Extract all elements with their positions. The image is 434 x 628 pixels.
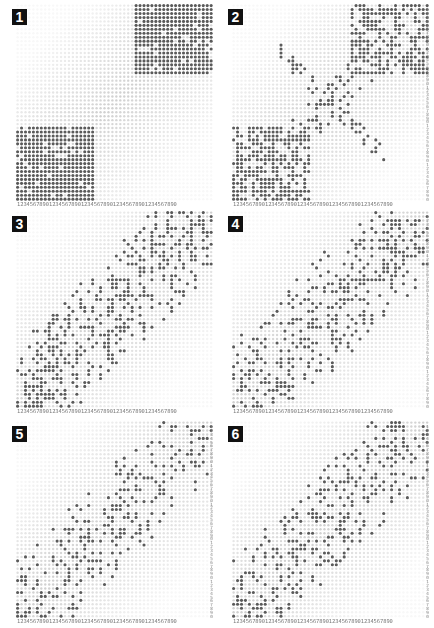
plot-panel-3: 3 12345678901234567890123456789012345678…	[3, 209, 215, 414]
y-axis-ticks: 1234567890123456789012345678901234567890…	[425, 425, 430, 619]
plot-panel-4: 4 12345678901234567890123456789012345678…	[219, 209, 431, 414]
x-axis-ticks: 1234567890123456789012345678901234567890…	[233, 201, 393, 207]
x-axis-ticks: 1234567890123456789012345678901234567890…	[17, 201, 177, 207]
dot-matrix	[3, 419, 215, 624]
dot-matrix	[3, 209, 215, 414]
x-axis-ticks: 1234567890123456789012345678901234567890…	[233, 408, 393, 414]
plot-panel-5: 5 12345678901234567890123456789012345678…	[3, 419, 215, 624]
x-axis-ticks: 1234567890123456789012345678901234567890…	[17, 618, 177, 624]
y-axis-ticks: 1234567890123456789012345678901234567890…	[425, 8, 430, 202]
dot-matrix	[219, 209, 431, 414]
x-axis-ticks: 1234567890123456789012345678901234567890…	[17, 408, 177, 414]
y-axis-ticks: 1234567890123456789012345678901234567890…	[209, 425, 214, 619]
plot-panel-2: 2 12345678901234567890123456789012345678…	[219, 2, 431, 207]
panel-number-badge: 4	[228, 216, 243, 232]
panel-number-badge: 6	[228, 426, 243, 442]
dot-matrix	[3, 2, 215, 207]
panel-number-badge: 3	[12, 216, 27, 232]
dot-matrix	[219, 2, 431, 207]
dot-matrix	[219, 419, 431, 624]
plot-panel-6: 6 12345678901234567890123456789012345678…	[219, 419, 431, 624]
y-axis-ticks: 1234567890123456789012345678901234567890…	[425, 215, 430, 409]
panel-number-badge: 2	[228, 9, 243, 25]
x-axis-ticks: 1234567890123456789012345678901234567890…	[233, 618, 393, 624]
panel-number-badge: 5	[12, 426, 27, 442]
plot-panel-1: 1 12345678901234567890123456789012345678…	[3, 2, 215, 207]
panel-number-badge: 1	[12, 9, 27, 25]
